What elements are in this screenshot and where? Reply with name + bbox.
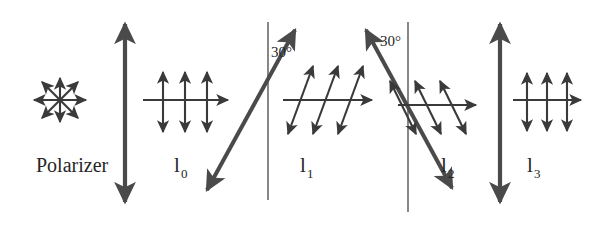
intensity-label-I0-subscript: 0 xyxy=(181,166,188,181)
intensity-label-I1-letter: l xyxy=(300,153,306,177)
angle-label-2: 30° xyxy=(380,33,401,49)
diagram-canvas: 30° 30° xyxy=(0,0,589,229)
polarizer-label: Polarizer xyxy=(36,154,109,176)
angle-label-1: 30° xyxy=(271,44,292,60)
intensity-label-I2-letter: l xyxy=(441,153,447,177)
polarizer-diagram: 30° 30° xyxy=(0,0,589,229)
intensity-label-I0-letter: l xyxy=(174,153,180,177)
intensity-label-I2-subscript: 2 xyxy=(448,166,455,181)
intensity-label-I3-letter: l xyxy=(527,153,533,177)
intensity-label-I3-subscript: 3 xyxy=(534,166,541,181)
intensity-label-I1-subscript: 1 xyxy=(307,166,314,181)
